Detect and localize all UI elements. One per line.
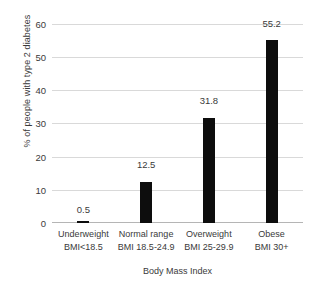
bar-value-label: 12.5 [137, 159, 156, 170]
x-category-name: Underweight [58, 229, 109, 239]
y-tick-label: 0 [41, 218, 46, 229]
x-category-normal-range: Normal range BMI 18.5-24.9 [115, 228, 178, 253]
bar-group-normal-range: 12.5 [115, 24, 178, 223]
y-tick-label: 50 [35, 52, 46, 63]
x-category-sublabel: BMI<18.5 [52, 241, 115, 254]
bar-group-overweight: 31.8 [178, 24, 241, 223]
y-tick-label: 10 [35, 185, 46, 196]
y-tick-label: 60 [35, 19, 46, 30]
x-category-name: Obese [258, 229, 285, 239]
x-category-obese: Obese BMI 30+ [240, 228, 303, 253]
x-category-sublabel: BMI 18.5-24.9 [115, 241, 178, 254]
y-tick-label: 30 [35, 118, 46, 129]
y-tick-label: 20 [35, 152, 46, 163]
x-category-name: Overweight [186, 229, 232, 239]
x-category-sublabel: BMI 25-29.9 [178, 241, 241, 254]
x-axis-title: Body Mass Index [52, 266, 303, 276]
bar-group-underweight: 0.5 [52, 24, 115, 223]
bar-chart: % of people with type 2 diabetes 60 50 4… [0, 0, 317, 292]
x-category-overweight: Overweight BMI 25-29.9 [178, 228, 241, 253]
bar-value-label: 0.5 [77, 204, 90, 215]
y-tick-label: 40 [35, 85, 46, 96]
bar-normal-range[interactable] [140, 182, 152, 224]
bar-overweight[interactable] [203, 118, 215, 224]
bar-obese[interactable] [266, 40, 278, 223]
x-category-name: Normal range [119, 229, 174, 239]
x-category-sublabel: BMI 30+ [240, 241, 303, 254]
bar-series: 0.5 12.5 31.8 55.2 [52, 24, 303, 223]
y-axis-tick-labels: 60 50 40 30 20 10 0 [0, 0, 52, 292]
bar-group-obese: 55.2 [240, 24, 303, 223]
x-axis-category-labels: Underweight BMI<18.5 Normal range BMI 18… [52, 228, 303, 262]
bar-value-label: 55.2 [262, 18, 281, 29]
plot-area: 0.5 12.5 31.8 55.2 [52, 24, 303, 223]
bar-underweight[interactable] [77, 221, 89, 223]
x-category-underweight: Underweight BMI<18.5 [52, 228, 115, 253]
bar-value-label: 31.8 [200, 95, 219, 106]
